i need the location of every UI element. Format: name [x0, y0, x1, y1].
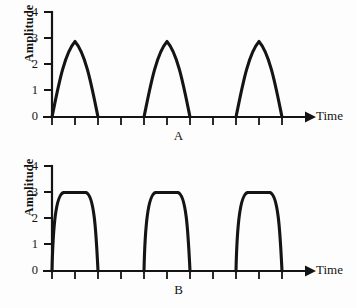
y-ticks-b [44, 166, 52, 244]
waveform-a-pulse-2 [144, 42, 190, 118]
panel-caption-a: A [0, 128, 357, 144]
y-axis-label-b: Amplitude [22, 143, 37, 233]
y-axis-label-a: Amplitude [22, 0, 37, 79]
x-axis-arrowhead-a [305, 112, 316, 123]
waveform-b-pulse-1 [52, 193, 98, 272]
waveform-b-pulse-2 [144, 193, 190, 272]
x-axis-label-b: Time [316, 262, 343, 278]
y-ticks-a [44, 12, 52, 90]
y-tick-label-0-b: 0 [22, 264, 38, 277]
x-ticks-b [52, 271, 282, 279]
waveform-b-pulse-3 [236, 193, 282, 272]
y-tick-label-1-b: 1 [22, 238, 38, 251]
x-ticks-a [52, 117, 282, 125]
panel-caption-b: B [0, 282, 357, 298]
waveform-a-pulse-1 [52, 42, 98, 118]
y-tick-label-1-a: 1 [22, 84, 38, 97]
waveform-figure: 4 3 2 1 0 Amplitude Time A [0, 0, 357, 308]
x-axis-arrowhead-b [305, 266, 316, 277]
chart-panel-b: 4 3 2 1 0 Amplitude Time B [0, 154, 357, 308]
x-axis-label-a: Time [316, 108, 343, 124]
y-tick-label-0-a: 0 [22, 110, 38, 123]
chart-panel-a: 4 3 2 1 0 Amplitude Time A [0, 0, 357, 154]
waveform-a-pulse-3 [236, 42, 282, 118]
